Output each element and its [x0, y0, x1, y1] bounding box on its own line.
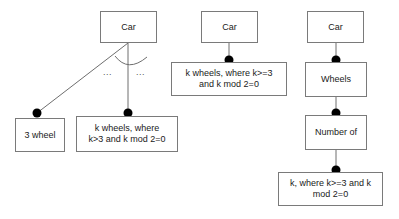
node-left-car[interactable]: Car [100, 11, 157, 43]
node-right-k-constraint[interactable]: k, where k>=3 and k mod 2=0 [278, 172, 383, 206]
node-left-three-wheel[interactable]: 3 wheel [15, 118, 65, 152]
ellipsis-right-label: ... [136, 67, 145, 77]
node-right-wheels[interactable]: Wheels [305, 62, 367, 97]
ellipsis-right: ... [136, 68, 145, 77]
diagram-canvas: Car ... ... 3 wheel k wheels, where k>3 … [0, 0, 399, 219]
edge-left-car-to-three-wheel [37, 43, 128, 113]
ellipsis-left-label: ... [103, 67, 112, 77]
node-left-three-wheel-label: 3 wheel [24, 130, 55, 141]
node-right-car-label: Car [328, 22, 343, 33]
node-left-car-label: Car [121, 22, 136, 33]
node-right-number-of-label: Number of [315, 127, 357, 138]
node-middle-car-label: Car [222, 22, 237, 33]
arc-left-multiplicity [115, 56, 147, 65]
node-middle-car[interactable]: Car [201, 11, 258, 43]
dot-left-three-wheel [33, 109, 42, 118]
node-left-k-wheels[interactable]: k wheels, where k>3 and k mod 2=0 [76, 116, 178, 152]
node-right-wheels-label: Wheels [321, 74, 351, 85]
node-right-car[interactable]: Car [307, 11, 364, 43]
node-left-k-wheels-label: k wheels, where k>3 and k mod 2=0 [88, 123, 165, 145]
node-middle-k-wheels[interactable]: k wheels, where k>=3 and k mod 2=0 [171, 62, 287, 96]
node-middle-k-wheels-label: k wheels, where k>=3 and k mod 2=0 [185, 68, 272, 90]
node-right-number-of[interactable]: Number of [305, 115, 367, 150]
node-right-k-constraint-label: k, where k>=3 and k mod 2=0 [290, 178, 371, 200]
ellipsis-left: ... [103, 68, 112, 77]
